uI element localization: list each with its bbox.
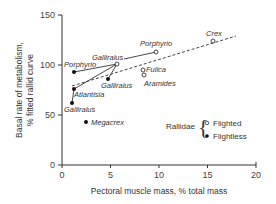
point-porphyrio-flightless <box>72 70 76 74</box>
label-galliralus-flightless-b: Galliralus <box>64 105 96 114</box>
legend: Rallidae { Flighted Flightless <box>166 114 247 141</box>
label-galliralus-flighted: Galliralus <box>92 53 124 62</box>
legend-flightless-label: Flightless <box>213 132 247 141</box>
legend-flighted-marker-icon <box>205 121 209 125</box>
x-tick-10: 10 <box>154 170 164 180</box>
point-porphyrio-flighted <box>154 50 158 54</box>
label-megacrex: Megacrex <box>91 118 124 127</box>
y-axis: 150 100 50 0 <box>40 10 62 170</box>
x-axis: 0 5 10 15 20 <box>59 162 261 180</box>
label-galliralus-flightless-a: Galliralus <box>101 81 133 90</box>
scatter-chart: 150 100 50 0 0 5 10 15 20 Pectoral muscl… <box>0 0 276 204</box>
y-tick-150: 150 <box>40 10 55 20</box>
y-tick-100: 100 <box>40 60 55 70</box>
point-fulica <box>141 68 145 72</box>
point-megacrex <box>84 120 88 124</box>
y-axis-title-line2: % fitted rallid curve <box>25 54 35 126</box>
x-tick-5: 5 <box>108 170 113 180</box>
label-aramides: Aramides <box>143 79 176 88</box>
legend-group-label: Rallidae <box>166 122 195 131</box>
x-tick-20: 20 <box>251 170 261 180</box>
label-porphyrio-flighted: Porphyrio <box>140 39 172 48</box>
x-axis-title: Pectoral muscle mass, % total mass <box>91 186 228 196</box>
y-tick-0: 0 <box>50 160 55 170</box>
legend-flightless-marker-icon <box>205 134 209 138</box>
x-tick-15: 15 <box>202 170 212 180</box>
label-fulica: Fulica <box>146 65 166 74</box>
legend-flighted-label: Flighted <box>213 119 241 128</box>
label-atlantisia: Atlantisia <box>73 90 104 99</box>
x-tick-0: 0 <box>59 170 64 180</box>
y-axis-title-line1: Basal rate of metabolism, <box>14 42 24 138</box>
label-crex: Crex <box>206 29 222 38</box>
point-galliralus-flighted <box>115 62 119 66</box>
point-crex <box>211 39 215 43</box>
chart-svg: 150 100 50 0 0 5 10 15 20 Pectoral muscl… <box>0 0 276 204</box>
y-tick-50: 50 <box>45 110 55 120</box>
